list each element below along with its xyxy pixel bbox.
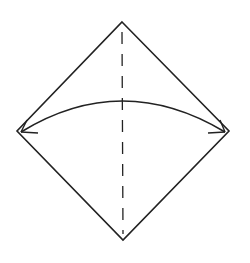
valley-fold-line — [122, 32, 123, 234]
origami-diagram — [0, 0, 250, 263]
